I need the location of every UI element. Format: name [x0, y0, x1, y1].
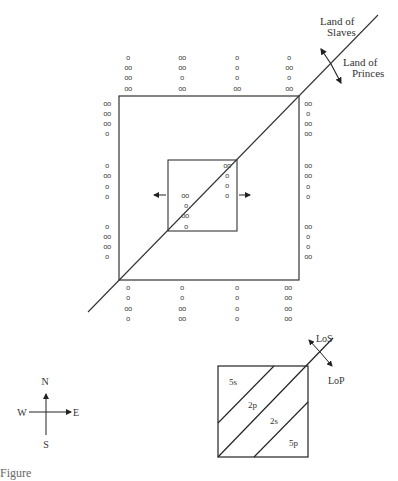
svg-text:o: o [287, 74, 291, 82]
svg-text:oo: oo [178, 85, 186, 93]
compass-w: W [17, 407, 27, 418]
svg-text:oo: oo [124, 305, 132, 313]
svg-text:o: o [287, 54, 291, 62]
svg-text:oo: oo [103, 120, 111, 128]
svg-text:oo: oo [284, 294, 292, 302]
svg-text:oo: oo [124, 74, 132, 82]
svg-text:o: o [225, 172, 229, 180]
region-5s: 5s [229, 377, 238, 387]
svg-text:o: o [126, 294, 130, 302]
svg-text:o: o [126, 54, 130, 62]
svg-text:o: o [235, 315, 239, 323]
svg-text:oo: oo [285, 85, 293, 93]
svg-text:oo: oo [178, 315, 186, 323]
svg-text:o: o [235, 284, 239, 292]
svg-text:o: o [126, 284, 130, 292]
compass-s: S [43, 439, 49, 450]
svg-text:oo: oo [181, 212, 189, 220]
svg-text:oo: oo [181, 192, 189, 200]
label-land-of-slaves-2: Slaves [327, 26, 356, 38]
svg-text:oo: oo [304, 100, 312, 108]
svg-text:o: o [306, 243, 310, 251]
svg-text:o: o [180, 74, 184, 82]
svg-text:o: o [180, 284, 184, 292]
region-2s: 2s [270, 416, 279, 426]
svg-text:o: o [235, 294, 239, 302]
svg-text:o: o [306, 193, 310, 201]
svg-text:o: o [105, 193, 109, 201]
svg-text:oo: oo [304, 253, 312, 261]
svg-text:o: o [235, 74, 239, 82]
compass-n: N [41, 376, 48, 387]
svg-text:oo: oo [103, 110, 111, 118]
bottom-circles: o o oo o o o oo oo o o o o oo oo oo oo [124, 284, 292, 323]
svg-text:o: o [180, 294, 184, 302]
figure-caption: Figure [0, 466, 31, 481]
svg-text:oo: oo [124, 85, 132, 93]
svg-text:oo: oo [304, 172, 312, 180]
svg-text:oo: oo [103, 172, 111, 180]
arrow-to-slaves [321, 49, 331, 64]
label-land-of-princes-2: Princes [352, 67, 384, 79]
svg-text:o: o [235, 54, 239, 62]
svg-text:o: o [105, 253, 109, 261]
svg-text:o: o [235, 305, 239, 313]
svg-text:oo: oo [304, 162, 312, 170]
svg-text:o: o [306, 110, 310, 118]
region-5p: 5p [289, 438, 299, 448]
svg-text:oo: oo [103, 243, 111, 251]
svg-text:o: o [306, 233, 310, 241]
arrow-to-princes [331, 64, 341, 83]
svg-text:oo: oo [178, 305, 186, 313]
inner-circles-right: oo o o o [223, 162, 231, 200]
svg-text:oo: oo [178, 54, 186, 62]
svg-text:oo: oo [223, 162, 231, 170]
svg-text:o: o [225, 192, 229, 200]
svg-text:oo: oo [284, 305, 292, 313]
svg-text:o: o [105, 162, 109, 170]
top-circles: o oo oo oo oo oo o oo o o o oo o oo o oo [124, 54, 293, 93]
svg-text:oo: oo [233, 85, 241, 93]
svg-text:oo: oo [284, 284, 292, 292]
inset-diagram: 5s 2p 2s 5p LoS LoP [218, 333, 345, 457]
label-lop: LoP [328, 375, 345, 386]
compass-rose: N S W E [17, 376, 79, 450]
left-circles: oo oo oo o o oo o o o oo oo o [103, 100, 111, 261]
svg-text:oo: oo [304, 223, 312, 231]
label-los: LoS [316, 333, 333, 344]
compass-e: E [73, 407, 79, 418]
svg-text:o: o [235, 64, 239, 72]
svg-text:oo: oo [103, 100, 111, 108]
svg-text:o: o [105, 183, 109, 191]
svg-text:o: o [105, 223, 109, 231]
inner-circles-left: oo o oo o [181, 192, 189, 231]
svg-text:oo: oo [304, 120, 312, 128]
svg-text:o: o [184, 223, 188, 231]
svg-text:o: o [306, 183, 310, 191]
right-circles: oo o oo oo oo oo o o oo o o oo [304, 100, 312, 261]
svg-text:o: o [184, 202, 188, 210]
svg-text:oo: oo [285, 64, 293, 72]
svg-text:o: o [225, 182, 229, 190]
region-2p: 2p [248, 400, 258, 410]
svg-text:oo: oo [124, 64, 132, 72]
svg-text:oo: oo [178, 64, 186, 72]
svg-text:oo: oo [304, 130, 312, 138]
svg-text:oo: oo [284, 315, 292, 323]
divider-line [88, 15, 378, 312]
svg-text:oo: oo [103, 233, 111, 241]
svg-text:o: o [126, 315, 130, 323]
svg-text:o: o [105, 130, 109, 138]
